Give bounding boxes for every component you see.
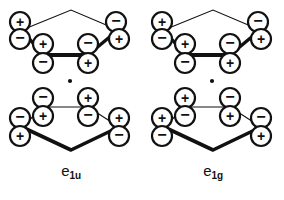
lobe-sign: −: [256, 108, 265, 125]
orbital-lobe-plus: +: [33, 34, 53, 54]
lobe-sign: −: [157, 126, 166, 143]
panel-e1g: +−+−−+−+ +−−++−−+ e1g: [142, 0, 284, 200]
orbital-lobe-minus: −: [78, 34, 98, 54]
lobe-sign: −: [114, 126, 123, 143]
lobe-group-lower-e1g: +−−++−−+: [152, 88, 271, 146]
diagram-e1u: +−+−−+−+ −++−−++−: [0, 0, 142, 165]
orbital-lobe-minus: −: [109, 126, 129, 146]
lobe-sign: +: [226, 55, 234, 71]
orbital-lobe-minus: −: [175, 53, 195, 73]
diagram-e1g: +−+−−+−+ +−−++−−+: [142, 0, 284, 165]
lobe-sign: −: [180, 106, 189, 123]
orbital-lobe-plus: +: [175, 34, 195, 54]
lobe-sign: +: [257, 128, 265, 144]
orbital-lobe-minus: −: [10, 29, 30, 49]
orbital-lobe-minus: −: [78, 106, 98, 126]
orbital-lobe-plus: +: [109, 29, 129, 49]
lobe-sign: −: [38, 53, 47, 70]
orbital-lobe-minus: −: [175, 106, 195, 126]
orbital-lobe-plus: +: [251, 126, 271, 146]
lobe-group-lower-e1u: −++−−++−: [10, 88, 129, 146]
mo-symmetry-figure: +−+−−+−+ −++−−++− e1u: [0, 0, 284, 200]
lobe-group-upper-e1u: +−+−−+−+: [10, 12, 129, 73]
lower-ring-front-edges: [22, 127, 119, 150]
label-e1g: e1g: [142, 163, 284, 180]
lobe-sign: −: [15, 108, 24, 125]
lower-ring-front-edges: [164, 127, 261, 150]
lobe-sign: +: [16, 14, 24, 30]
orbital-lobe-plus: +: [78, 53, 98, 73]
lobe-sign: −: [15, 29, 24, 46]
label-e1u: e1u: [0, 163, 142, 180]
lobe-sign: +: [257, 31, 265, 47]
center-metal-dot: [210, 79, 214, 83]
label-e1u-base: e: [61, 162, 69, 179]
orbital-lobe-plus: +: [10, 126, 30, 146]
orbital-lobe-plus: +: [33, 106, 53, 126]
orbital-lobe-minus: −: [33, 53, 53, 73]
lobe-sign: +: [158, 110, 166, 126]
lobe-sign: +: [115, 110, 123, 126]
panel-e1u: +−+−−+−+ −++−−++− e1u: [0, 0, 142, 200]
lobe-sign: −: [83, 34, 92, 51]
upper-ring-back-edges: [22, 10, 118, 30]
lobe-sign: +: [39, 36, 47, 52]
orbital-lobe-plus: +: [220, 53, 240, 73]
lobe-sign: −: [253, 12, 262, 29]
lobe-sign: +: [39, 108, 47, 124]
orbital-lobe-minus: −: [152, 126, 172, 146]
lobe-sign: −: [225, 34, 234, 51]
center-metal-dot: [68, 79, 72, 83]
lobe-sign: −: [111, 12, 120, 29]
lobe-sign: −: [157, 29, 166, 46]
label-e1g-subscript: 1g: [212, 170, 223, 181]
lobe-sign: +: [16, 128, 24, 144]
lobe-sign: +: [226, 108, 234, 124]
lobe-sign: +: [158, 14, 166, 30]
label-e1g-base: e: [203, 162, 211, 179]
upper-ring-back-edges: [164, 10, 260, 30]
orbital-lobe-minus: −: [220, 34, 240, 54]
lobe-sign: −: [225, 88, 234, 105]
lobe-sign: −: [38, 88, 47, 105]
lobe-sign: +: [84, 90, 92, 106]
lobe-sign: +: [84, 55, 92, 71]
lobe-sign: −: [180, 53, 189, 70]
lobe-sign: −: [83, 106, 92, 123]
lobe-sign: +: [181, 36, 189, 52]
lobe-sign: +: [115, 31, 123, 47]
orbital-lobe-plus: +: [251, 29, 271, 49]
label-e1u-subscript: 1u: [70, 170, 81, 181]
orbital-lobe-minus: −: [152, 29, 172, 49]
orbital-lobe-plus: +: [220, 106, 240, 126]
lobe-group-upper-e1g: +−+−−+−+: [152, 12, 271, 73]
lobe-sign: +: [181, 90, 189, 106]
